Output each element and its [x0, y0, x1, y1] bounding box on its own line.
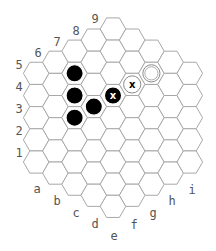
- black-stone-c4: [66, 109, 83, 126]
- column-label-g: g: [149, 206, 156, 220]
- row-label-1: 1: [15, 146, 22, 160]
- black-stone-c6: [66, 65, 83, 82]
- row-label-6: 6: [34, 46, 41, 60]
- column-label-b: b: [53, 194, 60, 208]
- row-label-5: 5: [15, 58, 22, 72]
- row-label-7: 7: [53, 35, 60, 49]
- column-label-d: d: [91, 217, 98, 231]
- column-label-c: c: [72, 206, 79, 220]
- white-stone-icon: [143, 65, 160, 82]
- row-label-9: 9: [91, 12, 98, 26]
- hex-board[interactable]: 543216789abcdefghi xx: [0, 0, 216, 251]
- cells-layer: [23, 18, 202, 218]
- hex-board-canvas[interactable]: 543216789abcdefghi xx: [0, 0, 216, 251]
- x-marker-icon: x: [110, 90, 117, 101]
- white-stone-f7: x: [124, 76, 141, 93]
- x-marker-icon: x: [129, 79, 136, 90]
- row-label-3: 3: [15, 102, 22, 116]
- black-stone-d5: [85, 98, 102, 115]
- black-stone-c5: [66, 87, 83, 104]
- row-label-8: 8: [72, 24, 79, 38]
- column-label-a: a: [33, 182, 40, 196]
- black-stone-icon: [66, 87, 83, 104]
- black-stone-e6: x: [104, 87, 121, 104]
- column-label-h: h: [168, 194, 175, 208]
- column-label-e: e: [110, 229, 117, 243]
- column-label-f: f: [130, 218, 137, 232]
- black-stone-icon: [66, 109, 83, 126]
- black-stone-icon: [66, 65, 83, 82]
- white-stone-g8: [143, 65, 160, 82]
- column-label-i: i: [188, 183, 195, 197]
- row-label-2: 2: [15, 124, 22, 138]
- black-stone-icon: [85, 98, 102, 115]
- row-label-4: 4: [15, 80, 22, 94]
